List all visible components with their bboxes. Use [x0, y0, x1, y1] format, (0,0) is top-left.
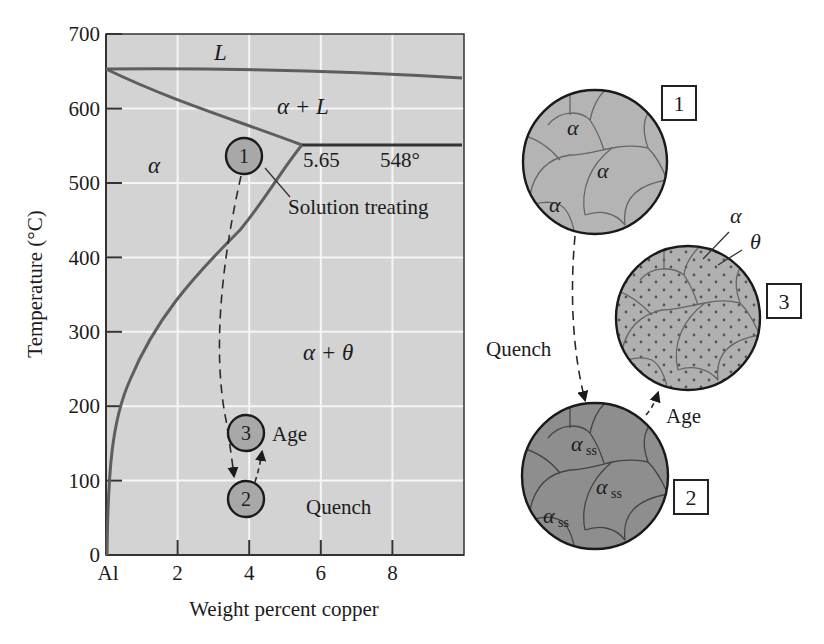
age-arrow-label: Age — [666, 404, 701, 428]
age-arrow — [646, 393, 658, 415]
x-tick-label: Al — [98, 561, 119, 585]
x-tick-label: 4 — [244, 561, 255, 585]
quench-arrow — [572, 236, 585, 400]
phase-diagram: 700 600 500 400 300 200 100 0 Al 2 4 6 8… — [23, 22, 464, 621]
phase-label-theta: θ — [750, 229, 761, 254]
y-tick-label: 300 — [69, 320, 101, 344]
x-tick-label: 2 — [172, 561, 183, 585]
y-tick-labels: 700 600 500 400 300 200 100 0 — [69, 22, 101, 567]
micrograph-2-number: 2 — [686, 485, 697, 510]
y-tick-label: 500 — [69, 171, 101, 195]
y-tick-label: 400 — [69, 246, 101, 270]
grain-label-alpha: α — [597, 158, 609, 183]
region-label-alpha: α — [148, 153, 161, 178]
micrograph-1-number: 1 — [674, 91, 685, 116]
step-2-number: 2 — [241, 488, 251, 510]
micrograph-3: α θ 3 — [612, 203, 801, 395]
y-axis-title: Temperature (°C) — [23, 210, 47, 357]
x-tick-labels: Al 2 4 6 8 — [98, 561, 398, 585]
svg-text:α: α — [543, 503, 555, 528]
heat-treatment-diagram: 700 600 500 400 300 200 100 0 Al 2 4 6 8… — [0, 0, 824, 644]
svg-text:ss: ss — [586, 443, 597, 458]
y-tick-label: 600 — [69, 97, 101, 121]
step-1-marker: 1 — [226, 138, 262, 174]
step-2-marker: 2 — [228, 481, 264, 517]
eutectic-temperature-label: 548° — [380, 148, 420, 172]
grain-label-alpha: α — [549, 192, 561, 217]
region-label-alpha-plus-liquid: α + L — [277, 94, 329, 119]
step-1-number: 1 — [239, 145, 249, 167]
step-3-marker: 3 — [228, 415, 264, 451]
phase-label-alpha: α — [730, 203, 742, 228]
svg-text:α: α — [596, 474, 608, 499]
micrograph-1: α α α 1 — [520, 86, 696, 240]
micrograph-3-number: 3 — [779, 289, 790, 314]
svg-text:α: α — [571, 431, 583, 456]
y-tick-label: 100 — [69, 469, 101, 493]
grain-label-alpha: α — [567, 115, 579, 140]
region-label-liquid: L — [213, 40, 227, 65]
svg-text:ss: ss — [611, 486, 622, 501]
quench-label: Quench — [306, 495, 372, 519]
x-tick-label: 6 — [316, 561, 327, 585]
x-axis-title: Weight percent copper — [189, 597, 379, 621]
y-tick-label: 200 — [69, 394, 101, 418]
svg-text:ss: ss — [558, 515, 569, 530]
x-tick-label: 8 — [387, 561, 398, 585]
y-tick-label: 700 — [69, 22, 101, 46]
quench-arrow-label: Quench — [486, 337, 552, 361]
region-label-alpha-plus-theta: α + θ — [303, 340, 353, 365]
step-3-number: 3 — [241, 422, 251, 444]
eutectic-composition-label: 5.65 — [303, 148, 340, 172]
solution-treating-label: Solution treating — [288, 195, 429, 219]
age-label: Age — [272, 422, 307, 446]
